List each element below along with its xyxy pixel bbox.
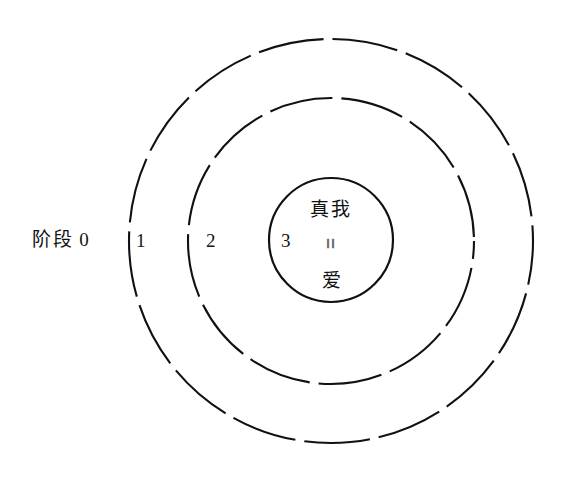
core-label-love: 爱 [322, 265, 341, 292]
equals-sign-icon: = [321, 237, 340, 248]
ring-number-2: 2 [206, 231, 216, 250]
ring-number-1: 1 [136, 231, 146, 250]
core-text-group: 真我 = 爱 [269, 180, 393, 302]
concentric-stage-diagram: 阶段 0 1 2 3 真我 = 爱 [0, 0, 585, 481]
core-label-true-self: 真我 [310, 194, 352, 221]
stage-label: 阶段 0 [32, 230, 90, 249]
